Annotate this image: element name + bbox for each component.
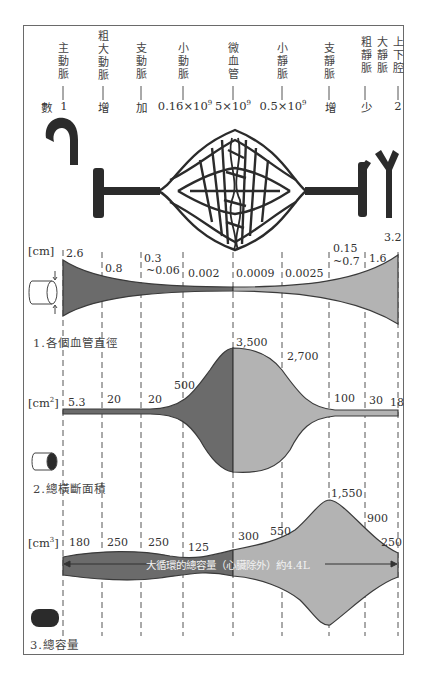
p2-value-arterioles: 500 <box>174 380 195 391</box>
p1-value-aorta: 2.6 <box>66 248 84 259</box>
p3-value-aorta: 180 <box>69 537 90 548</box>
p3-value-vena-cava: 250 <box>381 537 402 548</box>
p2-value-vena-cava: 18 <box>390 397 404 408</box>
count-exp: 9 <box>208 99 212 107</box>
capillary-network <box>158 130 306 250</box>
count-aorta: 1 <box>60 99 67 113</box>
unit-exp: 2 <box>50 396 54 404</box>
p2-value-branch-arteries: 20 <box>148 394 162 405</box>
p1-value-large-veins: 1.6 <box>369 253 387 264</box>
p3-value-arterioles: 125 <box>188 542 209 553</box>
unit-base: [cm <box>28 396 50 410</box>
p2-value-branch-veins: 100 <box>334 393 355 404</box>
vessel-illustration <box>46 118 399 218</box>
count-branch-veins: 增 <box>325 99 336 115</box>
count-large-arteries: 增 <box>98 99 109 115</box>
p2-value-venules: 2,700 <box>287 351 319 362</box>
count-base: 0.16×10 <box>158 99 208 113</box>
p3-value-capillaries: 300 <box>238 531 259 542</box>
p1-value-branch-arteries-a: 0.3 <box>144 253 162 264</box>
p1-value-vena-cava: 3.2 <box>384 232 402 243</box>
p2-value-large-veins: 30 <box>369 395 383 406</box>
p1-value-capillaries: 0.0009 <box>236 268 275 279</box>
tube-icon-diameter <box>29 271 57 314</box>
p2-value-large-arteries: 20 <box>107 394 121 405</box>
p2-value-aorta: 5.3 <box>68 397 86 408</box>
panel1-unit: [cm] <box>28 244 54 258</box>
p3-value-large-veins: 900 <box>367 513 388 524</box>
count-large-veins: 少 <box>361 99 372 115</box>
count-venules: 0.5×109 <box>259 99 306 113</box>
panel2-unit: [cm2] <box>28 396 59 410</box>
count-capillaries: 5×109 <box>215 99 251 113</box>
count-row-label: 數 <box>41 99 52 115</box>
panel2-area-shape <box>63 348 398 472</box>
total-volume-annotation: 大循環的總容量（心臟除外）約4.4L <box>146 557 310 572</box>
tube-icon-area <box>32 453 57 470</box>
panel3-unit: [cm3] <box>28 536 59 550</box>
p3-value-branch-veins: 1,550 <box>331 488 363 499</box>
p3-value-venules: 550 <box>270 526 291 537</box>
panel3-caption: 3.總容量 <box>30 636 79 652</box>
panel2-caption: 2.總橫斷面積 <box>33 480 106 496</box>
p1-value-large-arteries: 0.8 <box>105 263 123 274</box>
count-vena-cava: 2 <box>394 99 401 113</box>
count-exp: 9 <box>247 99 251 107</box>
capsule-icon-volume <box>31 609 59 627</box>
unit-base: [cm <box>28 536 50 550</box>
p3-value-large-arteries: 250 <box>107 537 128 548</box>
p1-value-branch-arteries-b: ~0.06 <box>146 265 180 276</box>
count-base: 0.5×10 <box>259 99 302 113</box>
p1-value-branch-veins-a: 0.15 <box>333 243 358 254</box>
p3-value-branch-arteries: 250 <box>148 537 169 548</box>
p1-value-branch-veins-b: ~0.7 <box>333 256 360 267</box>
p2-value-capillaries: 3,500 <box>236 337 268 348</box>
p1-value-venules: 0.0025 <box>285 268 324 279</box>
count-arterioles: 0.16×109 <box>158 99 212 113</box>
header-ticks <box>63 86 398 100</box>
unit-exp: 3 <box>50 536 54 544</box>
panel1-caption: 1.各個血管直徑 <box>33 334 118 350</box>
count-base: 5×10 <box>215 99 247 113</box>
count-branch-arteries: 加 <box>136 99 147 115</box>
count-exp: 9 <box>302 99 306 107</box>
p1-value-arterioles: 0.002 <box>188 268 220 279</box>
